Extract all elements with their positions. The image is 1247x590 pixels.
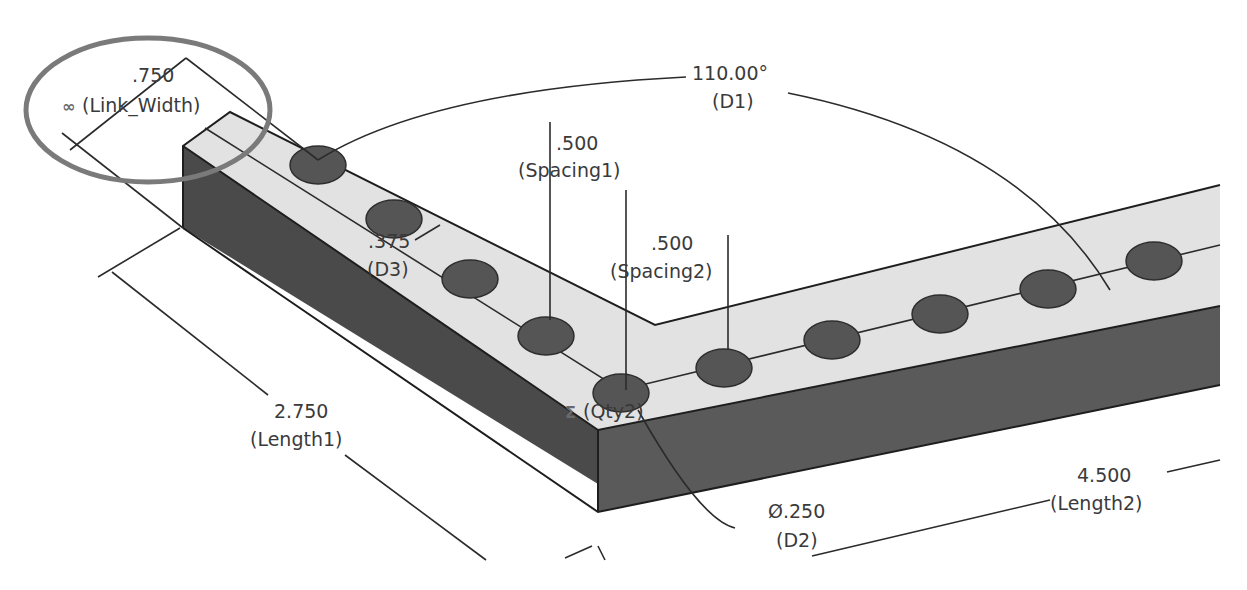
spacing1-value: .500: [556, 132, 598, 154]
d3-name: (D3): [367, 258, 409, 280]
hole: [1126, 242, 1182, 280]
hole: [518, 317, 574, 355]
spacing2-name: (Spacing2): [610, 260, 713, 282]
dim-d1[interactable]: 110.00° (D1): [692, 62, 768, 112]
dim-length2[interactable]: 4.500 (Length2): [1050, 464, 1142, 514]
length2-name: (Length2): [1050, 492, 1142, 514]
length1-value: 2.750: [274, 400, 328, 422]
spacing1-name: (Spacing1): [518, 159, 621, 181]
qty-name: (Qty2): [583, 400, 644, 422]
dim-d2[interactable]: Ø.250 (D2): [768, 500, 825, 551]
dim-link-width[interactable]: .750 ∞ (Link_Width): [62, 64, 200, 117]
dim-spacing1[interactable]: .500 (Spacing1): [518, 132, 621, 181]
sigma-icon: Σ: [565, 403, 576, 422]
d1-name: (D1): [712, 90, 754, 112]
hole: [804, 321, 860, 359]
link-width-name: (Link_Width): [82, 94, 200, 117]
d2-value: Ø.250: [768, 500, 825, 522]
d3-value: .375: [368, 230, 410, 252]
hole: [442, 260, 498, 298]
link-width-value: .750: [132, 64, 174, 86]
cad-drawing: .750 ∞ (Link_Width) 110.00° (D1) .500 (S…: [0, 0, 1247, 590]
length1-name: (Length1): [250, 428, 342, 450]
hole: [696, 349, 752, 387]
length2-value: 4.500: [1077, 464, 1131, 486]
d2-name: (D2): [776, 529, 818, 551]
link-icon: ∞: [62, 97, 75, 116]
hole: [290, 146, 346, 184]
spacing2-value: .500: [651, 232, 693, 254]
hole: [1020, 270, 1076, 308]
dim-length1[interactable]: 2.750 (Length1): [250, 400, 342, 450]
part-body: [183, 112, 1220, 512]
hole: [912, 295, 968, 333]
d1-value: 110.00°: [692, 62, 768, 84]
